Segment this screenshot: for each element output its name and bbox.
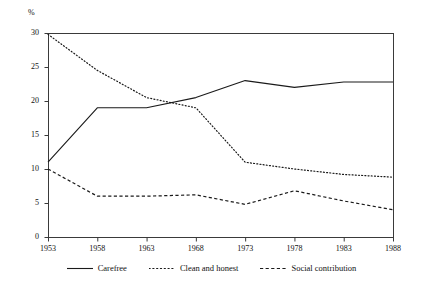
legend-entry-social-contribution: Social contribution — [260, 263, 356, 273]
y-axis-tick-label: 10 — [17, 164, 39, 173]
x-axis-tick-label: 1968 — [176, 244, 216, 253]
line-chart: % 302520151050 1953195819631968197319781… — [0, 0, 423, 291]
legend-label: Clean and honest — [180, 263, 239, 273]
y-axis-tick-label: 20 — [17, 96, 39, 105]
series-line-clean-and-honest — [48, 34, 393, 177]
series-line-carefree — [48, 81, 393, 163]
x-axis-tick-label: 1973 — [225, 244, 265, 253]
legend-entry-clean-and-honest: Clean and honest — [149, 263, 239, 273]
y-axis-tick-label: 0 — [17, 232, 39, 241]
legend-swatch-solid-icon — [67, 264, 93, 272]
x-axis-tick-label: 1988 — [373, 244, 413, 253]
x-axis-tick-label: 1983 — [324, 244, 364, 253]
y-axis-ticks — [45, 34, 49, 238]
legend-swatch-dotted-icon — [149, 264, 175, 272]
y-axis-tick-label: 5 — [17, 198, 39, 207]
chart-legend: CarefreeClean and honestSocial contribut… — [0, 263, 423, 273]
series-line-social-contribution — [48, 169, 393, 210]
legend-label: Social contribution — [291, 263, 356, 273]
y-axis-unit-label: % — [28, 8, 35, 17]
x-axis-tick-label: 1963 — [127, 244, 167, 253]
x-axis-tick-label: 1978 — [274, 244, 314, 253]
x-axis-ticks — [49, 238, 394, 242]
legend-label: Carefree — [98, 263, 127, 273]
legend-entry-carefree: Carefree — [67, 263, 127, 273]
x-axis-tick-label: 1958 — [77, 244, 117, 253]
y-axis-tick-label: 15 — [17, 130, 39, 139]
x-axis-tick-label: 1953 — [28, 244, 68, 253]
legend-swatch-dashed-icon — [260, 264, 286, 272]
data-series-layer — [48, 34, 393, 209]
y-axis-tick-label: 25 — [17, 62, 39, 71]
y-axis-tick-label: 30 — [17, 28, 39, 37]
